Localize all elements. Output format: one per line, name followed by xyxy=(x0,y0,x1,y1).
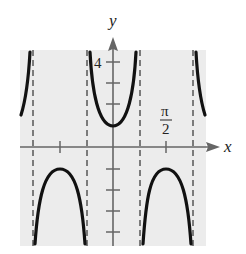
y-axis-label: y xyxy=(107,11,117,30)
y-tick-label-4: 4 xyxy=(94,55,102,71)
x-tick-label-pi-den: 2 xyxy=(162,121,170,137)
y-axis-arrow-icon xyxy=(108,37,118,51)
x-axis-label: x xyxy=(223,137,232,156)
x-axis-arrow-icon xyxy=(206,142,220,152)
x-tick-label-pi-num: π xyxy=(161,103,169,119)
sec-graph: y x 4 π 2 xyxy=(0,0,246,254)
